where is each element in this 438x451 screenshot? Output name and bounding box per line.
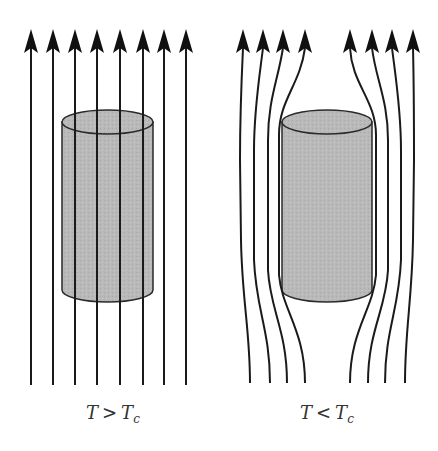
label-var: T xyxy=(300,402,312,423)
label-var2: T xyxy=(335,402,347,423)
label-superconducting-state: T<Tc xyxy=(300,402,354,426)
panel-superconducting-state xyxy=(236,29,420,383)
label-subscript: c xyxy=(347,412,354,426)
cylinder-right xyxy=(282,110,372,302)
label-subscript: c xyxy=(133,412,140,426)
arrowheads-left xyxy=(24,29,193,53)
label-var2: T xyxy=(121,402,133,423)
panel-normal-state xyxy=(24,29,193,385)
label-normal-state: T>Tc xyxy=(86,402,140,426)
label-operator: > xyxy=(102,402,117,423)
label-operator: < xyxy=(316,402,331,423)
meissner-effect-diagram xyxy=(0,0,438,451)
label-var: T xyxy=(86,402,98,423)
